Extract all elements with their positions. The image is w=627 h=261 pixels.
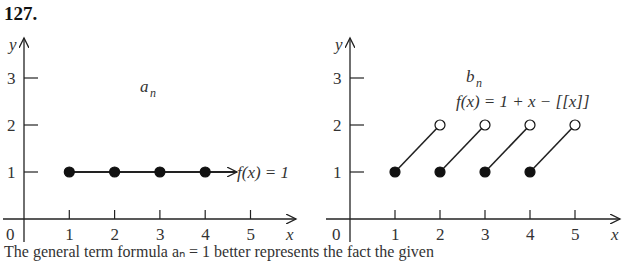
- sequence-label: a n: [140, 77, 156, 100]
- svg-text:b: b: [466, 67, 475, 86]
- x-axis-label: x: [610, 225, 619, 244]
- segment-line: [485, 125, 530, 172]
- data-point: [64, 167, 74, 177]
- function-label: f(x) = 1 + x − [[x]]: [456, 92, 590, 111]
- y-tick-label: 1: [7, 163, 16, 182]
- chart-b-n: 12345 123 y x 0 b n f(x) = 1 + x − [[x]]: [326, 35, 620, 244]
- closed-point: [525, 167, 535, 177]
- data-point: [110, 167, 120, 177]
- data-point: [200, 167, 210, 177]
- open-point: [435, 120, 445, 130]
- open-point: [525, 120, 535, 130]
- sequence-label: b n: [466, 67, 482, 90]
- svg-text:n: n: [476, 76, 482, 90]
- segment-line: [440, 125, 485, 172]
- y-axis-label: y: [333, 35, 343, 54]
- closed-point: [435, 167, 445, 177]
- segment-line: [530, 125, 575, 172]
- x-tick-label: 5: [571, 225, 580, 244]
- y-tick-label: 2: [7, 116, 16, 135]
- function-label: f(x) = 1: [237, 163, 289, 182]
- svg-text:n: n: [150, 86, 156, 100]
- y-tick-label: 3: [7, 69, 16, 88]
- open-point: [570, 120, 580, 130]
- y-axis-label: y: [7, 35, 17, 54]
- y-tick-label: 3: [333, 69, 342, 88]
- caption-text: The general term formula aₙ = 1 better r…: [4, 242, 434, 261]
- segment-line: [395, 125, 440, 172]
- chart-a-n: 12345 123 y x 0 a n f(x) = 1: [3, 35, 296, 244]
- y-tick-label: 2: [333, 116, 342, 135]
- x-tick-label: 4: [526, 225, 535, 244]
- data-point: [155, 167, 165, 177]
- open-point: [480, 120, 490, 130]
- closed-point: [390, 167, 400, 177]
- svg-text:a: a: [140, 77, 149, 96]
- problem-number: 127.: [4, 3, 37, 24]
- x-tick-label: 3: [481, 225, 490, 244]
- y-tick-label: 1: [333, 163, 342, 182]
- closed-point: [480, 167, 490, 177]
- x-tick-label: 2: [436, 225, 445, 244]
